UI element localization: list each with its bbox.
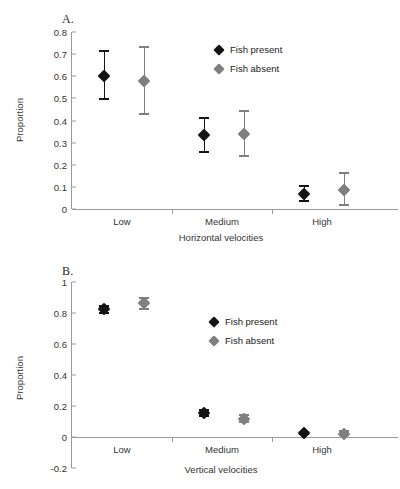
panel-a: A. Proportion 00.10.20.30.40.50.60.70.8 … bbox=[0, 0, 400, 250]
legend-diamond-icon bbox=[213, 44, 224, 55]
data-point-marker bbox=[138, 75, 151, 88]
data-point-marker bbox=[298, 188, 311, 201]
error-bar-cap-bottom bbox=[99, 98, 109, 100]
y-tick-label: 0.1 bbox=[54, 181, 72, 192]
error-bar-cap-top bbox=[239, 110, 249, 112]
panel-a-y-axis-title: Proportion bbox=[14, 98, 25, 142]
data-point-marker bbox=[298, 427, 311, 440]
panel-b: B. Proportion -0.200.20.40.60.81 LowMedi… bbox=[0, 250, 400, 489]
error-bar-cap-top bbox=[199, 117, 209, 119]
panel-b-legend: Fish presentFish absent bbox=[210, 314, 277, 352]
y-tick-label: 0.4 bbox=[54, 370, 72, 381]
error-bar-cap-bottom bbox=[239, 155, 249, 157]
x-category-label: High bbox=[312, 216, 332, 227]
x-axis-separator bbox=[172, 209, 173, 214]
y-tick-label: 0.7 bbox=[54, 49, 72, 60]
y-tick-label: 0.8 bbox=[54, 27, 72, 38]
error-bar-cap-top bbox=[139, 46, 149, 48]
error-bar-cap-bottom bbox=[139, 113, 149, 115]
y-tick-label: 0 bbox=[62, 432, 72, 443]
y-tick-label: 0.2 bbox=[54, 159, 72, 170]
data-point-marker bbox=[198, 129, 211, 142]
x-category-label: Low bbox=[113, 216, 130, 227]
y-tick-label: -0.2 bbox=[51, 463, 72, 474]
error-bar-cap-bottom bbox=[199, 151, 209, 153]
y-tick-label: 0.4 bbox=[54, 115, 72, 126]
legend-item: Fish present bbox=[215, 42, 282, 57]
y-tick-label: 0.8 bbox=[54, 308, 72, 319]
legend-label: Fish absent bbox=[225, 335, 274, 346]
y-tick-label: 1 bbox=[62, 277, 72, 288]
x-axis-separator bbox=[272, 209, 273, 214]
panel-a-legend: Fish presentFish absent bbox=[215, 42, 282, 80]
y-tick-label: 0.3 bbox=[54, 137, 72, 148]
y-tick-label: 0 bbox=[62, 204, 72, 215]
legend-item: Fish absent bbox=[210, 333, 277, 348]
panel-a-x-axis bbox=[72, 209, 398, 210]
legend-diamond-icon bbox=[208, 316, 219, 327]
panel-a-x-axis-title: Horizontal velocities bbox=[179, 232, 263, 243]
panel-a-label: A. bbox=[62, 12, 74, 27]
error-bar-cap-bottom bbox=[339, 204, 349, 206]
panel-b-data-marks bbox=[72, 282, 371, 468]
legend-label: Fish absent bbox=[230, 63, 279, 74]
data-point-marker bbox=[338, 427, 351, 440]
error-bar-cap-top bbox=[339, 172, 349, 174]
y-tick-label: 0.6 bbox=[54, 71, 72, 82]
data-point-marker bbox=[238, 128, 251, 141]
legend-label: Fish present bbox=[225, 316, 277, 327]
legend-diamond-icon bbox=[208, 335, 219, 346]
figure-root: A. Proportion 00.10.20.30.40.50.60.70.8 … bbox=[0, 0, 400, 489]
legend-diamond-icon bbox=[213, 63, 224, 74]
y-tick-label: 0.6 bbox=[54, 339, 72, 350]
legend-item: Fish present bbox=[210, 314, 277, 329]
panel-b-x-axis-title: Vertical velocities bbox=[185, 464, 258, 475]
panel-b-plot-area: -0.200.20.40.60.81 LowMediumHigh bbox=[71, 282, 371, 468]
panel-b-y-axis-title: Proportion bbox=[14, 356, 25, 400]
data-point-marker bbox=[338, 183, 351, 196]
x-category-label: Medium bbox=[205, 216, 239, 227]
legend-item: Fish absent bbox=[215, 61, 282, 76]
error-bar-cap-top bbox=[99, 50, 109, 52]
y-tick-label: 0.5 bbox=[54, 93, 72, 104]
y-tick-label: 0.2 bbox=[54, 401, 72, 412]
legend-label: Fish present bbox=[230, 44, 282, 55]
data-point-marker bbox=[98, 70, 111, 83]
